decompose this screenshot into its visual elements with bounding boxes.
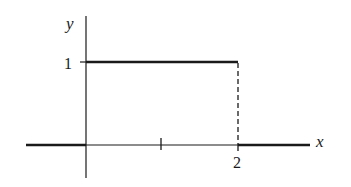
y-tick-label-1: 1 [64, 55, 72, 72]
x-axis-label: x [315, 132, 324, 151]
function-graph: y 1 2 x [0, 0, 351, 187]
x-tick-label-2: 2 [233, 154, 241, 171]
y-axis-label: y [64, 14, 74, 33]
